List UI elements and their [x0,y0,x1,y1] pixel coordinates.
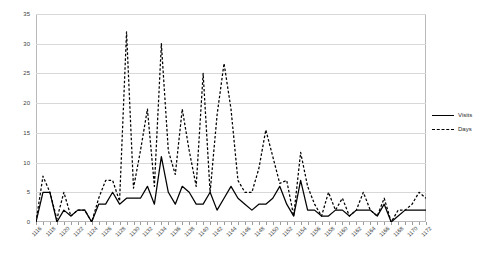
x-tick-label-1164: 1164 [365,226,377,238]
legend-label: Visits [458,112,472,118]
x-tick [92,222,93,225]
x-axis-labels: 1116111811201122112411261128113011321134… [36,226,426,254]
x-tick [182,222,183,225]
x-tick-label-1166: 1166 [379,226,391,238]
x-tick [273,222,274,225]
x-tick [252,222,253,225]
x-tick [85,222,86,225]
x-tick [287,222,288,225]
x-tick-label-1162: 1162 [351,226,363,238]
x-tick [127,222,128,225]
x-tick [377,222,378,225]
x-tick [294,222,295,225]
y-axis: 05101520253035 [0,14,34,222]
x-tick [412,222,413,225]
x-tick [329,222,330,225]
x-tick [50,222,51,225]
x-tick-label-1118: 1118 [45,226,57,238]
x-tick-label-1122: 1122 [73,226,85,238]
y-tick-label-15: 15 [23,130,30,136]
x-tick [168,222,169,225]
x-tick-label-1134: 1134 [156,226,168,238]
x-tick [134,222,135,225]
x-tick-label-1156: 1156 [309,226,321,238]
legend-label: Days [458,126,472,132]
x-tick [231,222,232,225]
x-tick-label-1160: 1160 [337,226,349,238]
x-tick [315,222,316,225]
x-tick [203,222,204,225]
x-tick [210,222,211,225]
x-tick-label-1128: 1128 [114,226,126,238]
x-tick [64,222,65,225]
x-tick-label-1154: 1154 [295,226,307,238]
x-tick-label-1138: 1138 [184,226,196,238]
x-tick [259,222,260,225]
x-tick-label-1146: 1146 [240,226,252,238]
x-tick [391,222,392,225]
x-tick-label-1136: 1136 [170,226,182,238]
y-tick-label-30: 30 [23,41,30,47]
x-tick-label-1158: 1158 [323,226,335,238]
x-tick-label-1172: 1172 [421,226,433,238]
x-tick-label-1126: 1126 [100,226,112,238]
chart-legend: VisitsDays [432,108,494,136]
x-tick [140,222,141,225]
series-line-days [36,32,426,222]
series-lines [36,14,426,222]
x-tick-label-1132: 1132 [142,226,154,238]
x-tick [426,222,427,225]
y-tick-label-10: 10 [23,160,30,166]
x-tick [43,222,44,225]
x-tick-label-1140: 1140 [198,226,210,238]
x-tick [419,222,420,225]
x-tick [301,222,302,225]
legend-swatch-dashed-line-icon [432,129,454,130]
x-tick [99,222,100,225]
x-tick-label-1116: 1116 [31,226,43,238]
series-line-visits [36,157,426,222]
x-tick-label-1120: 1120 [59,226,71,238]
x-tick-label-1148: 1148 [254,226,266,238]
x-tick [398,222,399,225]
x-tick [322,222,323,225]
x-tick [266,222,267,225]
x-tick [349,222,350,225]
x-tick-label-1152: 1152 [281,226,293,238]
y-tick-label-25: 25 [23,70,30,76]
y-tick-label-5: 5 [27,189,30,195]
x-tick [217,222,218,225]
x-tick [238,222,239,225]
x-tick [335,222,336,225]
x-tick-label-1142: 1142 [212,226,224,238]
x-tick [71,222,72,225]
x-tick [245,222,246,225]
y-tick-label-0: 0 [27,219,30,225]
x-tick-label-1150: 1150 [268,226,280,238]
x-tick [57,222,58,225]
legend-swatch-solid-line-icon [432,115,454,116]
x-tick [308,222,309,225]
y-tick-label-20: 20 [23,100,30,106]
x-tick [120,222,121,225]
x-tick [36,222,37,225]
x-tick [106,222,107,225]
line-chart: 05101520253035 1116111811201122112411261… [0,0,497,256]
x-tick-label-1168: 1168 [393,226,405,238]
x-tick [363,222,364,225]
x-tick-label-1144: 1144 [226,226,238,238]
plot-area [36,14,426,222]
x-tick [113,222,114,225]
legend-item-visits[interactable]: Visits [432,108,494,122]
x-tick [224,222,225,225]
x-tick [280,222,281,225]
x-tick-label-1124: 1124 [86,226,98,238]
x-tick [154,222,155,225]
legend-item-days[interactable]: Days [432,122,494,136]
x-tick [196,222,197,225]
x-tick-label-1170: 1170 [407,226,419,238]
y-tick-label-35: 35 [23,11,30,17]
x-tick-label-1130: 1130 [128,226,140,238]
x-tick [78,222,79,225]
x-tick [405,222,406,225]
